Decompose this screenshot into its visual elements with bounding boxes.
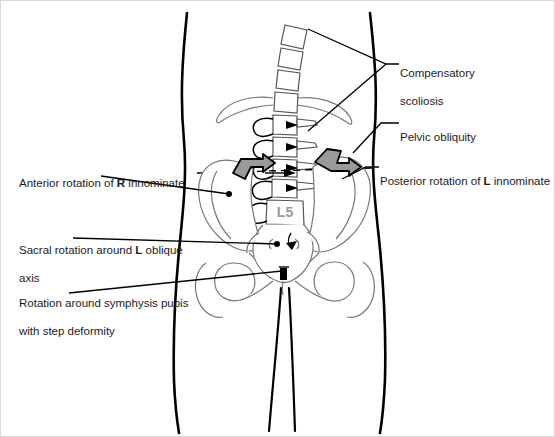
rotation-arrow-L1 — [253, 118, 273, 136]
thigh-gap-left-line — [269, 288, 281, 431]
symphysis-step-block — [280, 268, 287, 280]
label-sacral-rotation-suffix: oblique — [142, 244, 182, 256]
label-anterior-rotation-suffix: innominate — [125, 177, 184, 189]
label-compensatory-scoliosis-line1: Compensatory — [400, 66, 545, 80]
label-rotation-symphysis-pubis: Rotation around symphysis pubis with ste… — [19, 282, 199, 352]
inner-thigh-gap — [269, 288, 295, 431]
label-anterior-rotation-prefix: Anterior rotation of — [19, 177, 117, 189]
label-compensatory-scoliosis-line2: scoliosis — [400, 94, 545, 108]
label-posterior-rotation-left-innominate: Posterior rotation of L innominate — [380, 160, 555, 188]
label-posterior-rotation-prefix: Posterior rotation of — [380, 175, 484, 187]
anatomical-figure: L5 — [0, 0, 555, 437]
vertebra-L2-process-right — [297, 141, 317, 149]
label-anterior-rotation-right-innominate: Anterior rotation of R innominate — [19, 162, 199, 190]
label-sacral-rotation-line1: Sacral rotation around L oblique — [19, 243, 194, 257]
vertebra-T4 — [274, 92, 298, 113]
vertebra-T3 — [276, 70, 300, 91]
label-posterior-rotation-side: L — [484, 175, 491, 187]
vertebra-L5-label: L5 — [277, 204, 294, 220]
vertebra-T1 — [281, 25, 307, 49]
sacrum — [247, 224, 319, 295]
leader-pelvic-obliquity — [353, 123, 399, 153]
spine-upper-vertebrae — [274, 25, 307, 113]
thigh-gap-right-line — [289, 288, 295, 431]
label-sacral-rotation-prefix: Sacral rotation around — [19, 244, 135, 256]
label-symphysis-line1: Rotation around symphysis pubis — [19, 296, 199, 310]
label-pelvic-obliquity: Pelvic obliquity — [400, 116, 545, 158]
leader-compensatory-scoliosis-a — [308, 29, 399, 64]
torso-left-contour — [174, 13, 187, 433]
rotation-arrow-L4 — [252, 181, 272, 199]
label-symphysis-line2: with step deformity — [19, 324, 199, 338]
label-posterior-rotation-suffix: innominate — [491, 175, 550, 187]
coccyx — [282, 281, 283, 295]
acetabulum-right — [215, 263, 255, 301]
acetabulum-left — [314, 262, 354, 301]
dot-anterior-rotation — [226, 191, 232, 197]
dot-sacral-rotation — [274, 241, 280, 247]
label-pelvic-obliquity-line1: Pelvic obliquity — [400, 130, 545, 144]
label-compensatory-scoliosis: Compensatory scoliosis — [400, 52, 545, 122]
vertebra-T2 — [278, 48, 303, 70]
label-anterior-rotation-side: R — [117, 177, 125, 189]
